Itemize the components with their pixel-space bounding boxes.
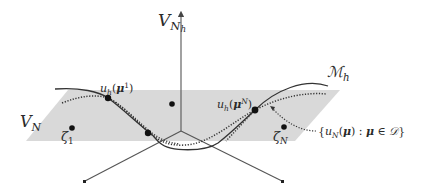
point-uh-muN	[252, 107, 259, 114]
label-uh-muN: uh(μN)	[217, 98, 252, 112]
axis-right-tip	[281, 180, 284, 183]
label-uh-mu1: uh(μ1)	[100, 82, 133, 96]
axis-left-tip	[83, 180, 86, 183]
reduced-basis-diagram	[0, 0, 421, 196]
label-vn: VN	[20, 114, 41, 134]
point-plane-mid	[169, 101, 175, 107]
label-vnh: VNh	[158, 12, 186, 34]
label-manifold-mh: ℳh	[327, 65, 350, 83]
point-curve-mid	[145, 130, 151, 136]
point-zetaN	[281, 124, 287, 130]
label-zetaN: ζN	[273, 130, 288, 146]
label-reduced-solution-set: {uN(μ) : μ ∈ 𝒟}	[318, 126, 405, 139]
label-zeta1: ζ1	[61, 130, 74, 146]
